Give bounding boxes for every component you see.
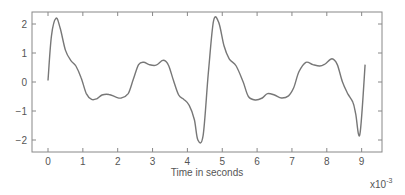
signal-line	[48, 17, 365, 143]
x-axis-label: Time in seconds	[171, 167, 243, 178]
x-tick-label: 6	[254, 156, 260, 167]
x-tick-label: 1	[80, 156, 86, 167]
x-tick-label: 9	[359, 156, 365, 167]
line-chart: 0123456789 210−1−2 Time in seconds x10-3	[0, 0, 405, 195]
x-tick-label: 2	[115, 156, 121, 167]
y-tick-label: −2	[16, 135, 28, 146]
x-tick-label: 8	[324, 156, 330, 167]
x-tick-label: 4	[185, 156, 191, 167]
x-tick-label: 0	[45, 156, 51, 167]
x-axis-ticks: 0123456789	[45, 12, 365, 167]
y-tick-label: 2	[21, 19, 27, 30]
x-axis-multiplier: x10-3	[370, 177, 392, 190]
x-tick-label: 7	[289, 156, 295, 167]
y-tick-label: −1	[16, 106, 28, 117]
y-tick-label: 1	[21, 48, 27, 59]
x-tick-label: 5	[219, 156, 225, 167]
x-tick-label: 3	[150, 156, 156, 167]
y-axis-ticks: 210−1−2	[16, 19, 382, 146]
y-tick-label: 0	[21, 77, 27, 88]
